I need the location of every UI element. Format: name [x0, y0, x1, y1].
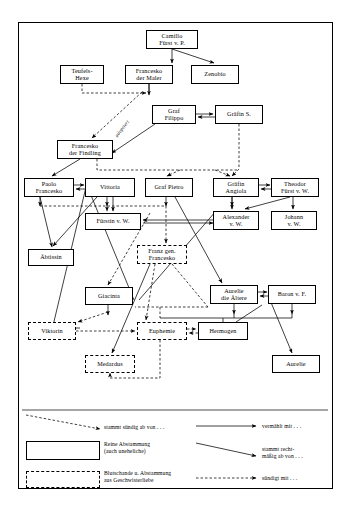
node-label: Viktorin — [41, 328, 63, 335]
legend-label-married: vermählt mit . . . — [262, 423, 301, 430]
node-label: Graf Pietro — [154, 184, 183, 191]
node-label: Fürstin v. W. — [96, 218, 129, 225]
node-label-line2: Filippo — [165, 115, 184, 122]
legend-label-incest-descent: Blutschande u. Abstammung aus Geschwiste… — [104, 470, 171, 484]
node-label-line2: der Maler — [136, 75, 163, 82]
node-label: Hermogen — [209, 328, 236, 335]
node-label: Baron v. F. — [278, 291, 306, 298]
node-hermogen[interactable]: Hermogen — [198, 322, 248, 340]
node-findling[interactable]: Franceskoder Findling — [57, 140, 113, 159]
node-label-line2: v. W. — [223, 221, 250, 228]
legend-label-lawful-descent: stammt recht- mäßig ab von . . . — [262, 446, 303, 460]
node-fuerstin[interactable]: Fürstin v. W. — [85, 213, 141, 230]
node-label: Äbtissin — [40, 254, 62, 261]
node-label: Aurelie — [286, 361, 305, 368]
node-camillo[interactable]: CamilloFürst v. P. — [146, 30, 198, 49]
node-franz[interactable]: Franz gen.Francesko — [137, 245, 187, 264]
node-label-line2: Francesko — [36, 188, 63, 195]
diagram-page: Francesko der Maler (dashed, sündigt mit… — [0, 0, 351, 516]
node-paolo[interactable]: PaoloFrancesko — [24, 178, 74, 197]
legend-label-pure-descent: Reine Abstammung (auch uneheliche) — [104, 441, 150, 455]
node-label-line2: Francesko — [148, 255, 175, 262]
legend-swatch-pure-descent — [26, 441, 100, 460]
node-johann[interactable]: Johannv. W. — [271, 211, 317, 230]
node-aurelie_ae[interactable]: Aureliedie Ältere — [210, 285, 258, 304]
legend-swatch-incest-descent — [26, 471, 100, 488]
node-aebtissin[interactable]: Äbtissin — [28, 249, 74, 266]
node-maler[interactable]: Franceskoder Maler — [125, 65, 173, 84]
node-baron[interactable]: Baron v. F. — [268, 285, 316, 304]
node-pietro[interactable]: Graf Pietro — [145, 178, 193, 197]
node-giacinta[interactable]: Giacinta — [85, 287, 133, 305]
node-aurelie[interactable]: Aurelie — [272, 355, 320, 373]
node-label: Euphemie — [149, 328, 175, 335]
node-euphemie[interactable]: Euphemie — [137, 322, 187, 340]
node-theodor[interactable]: TheodorFürst v. W. — [271, 178, 319, 197]
node-vittoria[interactable]: Vittoria — [85, 178, 135, 197]
node-label: Gräfin S. — [227, 111, 251, 118]
node-label-line2: Fürst v. W. — [281, 188, 309, 195]
node-alexander[interactable]: Alexanderv. W. — [213, 211, 259, 230]
node-label-line2: die Ältere — [221, 295, 247, 302]
node-viktorin[interactable]: Viktorin — [28, 322, 76, 340]
node-label-line2: v. W. — [285, 221, 303, 228]
node-graefins[interactable]: Gräfin S. — [215, 105, 263, 124]
node-zenobio[interactable]: Zenobio — [191, 65, 239, 84]
node-medardus[interactable]: Medardus — [85, 355, 135, 373]
node-label-line2: Hexe — [71, 75, 92, 82]
node-teufelshexe[interactable]: Teufels-Hexe — [60, 65, 104, 84]
legend-label-sins-with: sündigt mit . . . — [262, 475, 298, 482]
legend-label-descent-sinful: stammt sündig ab von . . . — [104, 424, 165, 431]
node-label: Vittoria — [100, 184, 120, 191]
node-label: Zenobio — [204, 71, 226, 78]
node-label: Giacinta — [98, 293, 120, 300]
node-label-line2: der Findling — [69, 150, 101, 157]
node-label: Medardus — [97, 361, 123, 368]
node-filippo[interactable]: GrafFilippo — [152, 105, 196, 124]
node-label-line2: Fürst v. P. — [159, 40, 185, 47]
node-angiola[interactable]: GräfinAngiola — [213, 178, 259, 197]
node-label-line2: Angiola — [226, 188, 247, 195]
